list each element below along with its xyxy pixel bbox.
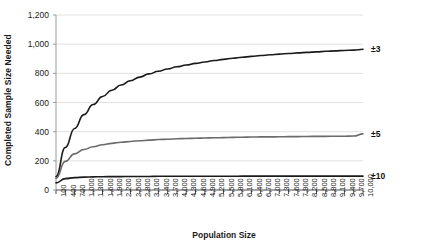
series-line xyxy=(56,49,363,176)
series-label: ±3 xyxy=(371,44,380,54)
x-tick-label: 100 xyxy=(59,184,68,197)
x-tick-label: 9,100 xyxy=(338,178,347,197)
x-tick-label: 2,800 xyxy=(143,178,152,197)
x-tick-label: 1,900 xyxy=(115,178,124,197)
x-tick-label: 8,500 xyxy=(320,178,329,197)
x-tick-label: 2,500 xyxy=(134,178,143,197)
x-tick-label: 7,300 xyxy=(282,178,291,197)
x-tick-label: 1,000 xyxy=(87,178,96,197)
x-tick-label: 3,400 xyxy=(162,178,171,197)
x-tick-label: 4,300 xyxy=(189,178,198,197)
x-tick-label: 6,700 xyxy=(264,178,273,197)
x-tick-label: 700 xyxy=(78,184,87,197)
x-axis-title: Population Size xyxy=(0,230,426,240)
series-label: ±10 xyxy=(371,171,385,181)
x-tick-label: 8,200 xyxy=(310,178,319,197)
x-tick-label: 4,600 xyxy=(199,178,208,197)
x-tick-label: 5,200 xyxy=(217,178,226,197)
x-tick-label: 6,100 xyxy=(245,178,254,197)
x-tick-label: 7,600 xyxy=(292,178,301,197)
x-tick-label: 2,200 xyxy=(124,178,133,197)
plot-area xyxy=(0,0,426,247)
x-tick-label: 4,000 xyxy=(180,178,189,197)
x-tick-label: 7,000 xyxy=(273,178,282,197)
x-tick-label: 4,900 xyxy=(208,178,217,197)
x-tick-label: 6,400 xyxy=(255,178,264,197)
x-tick-label: 400 xyxy=(69,184,78,197)
series-label: ±5 xyxy=(371,129,380,139)
x-axis-title-text: Population Size xyxy=(192,230,255,240)
x-tick-label: 5,500 xyxy=(227,178,236,197)
series-line xyxy=(56,134,363,178)
x-tick-label: 8,800 xyxy=(329,178,338,197)
x-tick-label: 1,600 xyxy=(106,178,115,197)
chart-container: Completed Sample Size Needed 02004006008… xyxy=(0,0,426,247)
x-tick-label: 1,300 xyxy=(96,178,105,197)
x-tick-label: 9,400 xyxy=(348,178,357,197)
x-tick-label: 7,900 xyxy=(301,178,310,197)
x-tick-label: 3,700 xyxy=(171,178,180,197)
x-tick-label: 5,800 xyxy=(236,178,245,197)
x-tick-label: 9,700 xyxy=(357,178,366,197)
x-tick-label: 3,100 xyxy=(152,178,161,197)
